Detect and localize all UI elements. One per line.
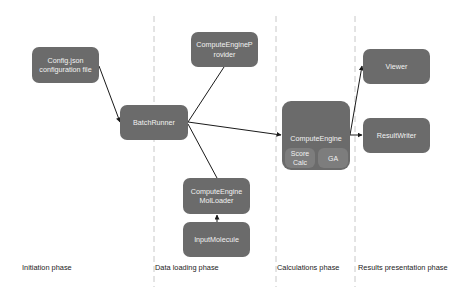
node-result-writer-label: ResultWriter — [377, 131, 416, 141]
edge-computeengine-to-viewer — [350, 66, 362, 135]
phase-label-initiation: Initiation phase — [22, 263, 72, 272]
node-provider-line2: rovider — [196, 50, 252, 60]
node-config-line1: Config.json — [39, 56, 91, 66]
edge-batchrunner-to-computeengine — [188, 122, 281, 135]
node-compute-engine-label: ComputeEngine — [282, 134, 350, 144]
node-batch-runner[interactable]: BatchRunner — [120, 105, 188, 140]
subnode-score-calc-line1: Score — [291, 149, 309, 158]
phase-label-data-loading: Data loading phase — [155, 263, 219, 272]
node-mol-loader-line1: ComputeEngine — [191, 187, 243, 197]
phase-label-calculations: Calculations phase — [277, 263, 339, 272]
subnode-ga-label: GA — [328, 154, 338, 163]
phase-label-results-presentation: Results presentation phase — [358, 263, 448, 272]
edge-config-to-batchrunner — [99, 66, 120, 122]
node-batch-runner-label: BatchRunner — [133, 118, 175, 128]
node-mol-loader[interactable]: ComputeEngine MolLoader — [183, 178, 250, 214]
node-result-writer[interactable]: ResultWriter — [363, 118, 430, 153]
node-compute-engine-provider[interactable]: ComputeEngineP rovider — [191, 32, 258, 67]
subnode-score-calc-line2: Calc — [291, 158, 309, 167]
node-mol-loader-line2: MolLoader — [191, 196, 243, 206]
edge-batchrunner-to-provider — [188, 67, 224, 122]
node-config-line2: configuration file — [39, 65, 91, 75]
node-config-json[interactable]: Config.json configuration file — [32, 47, 99, 83]
node-viewer-label: Viewer — [386, 62, 408, 72]
subnode-score-calc[interactable]: Score Calc — [285, 148, 315, 168]
edge-batchrunner-to-molloader — [188, 124, 217, 178]
node-compute-engine[interactable]: ComputeEngine Score Calc GA — [282, 101, 350, 170]
subnode-ga[interactable]: GA — [318, 148, 348, 168]
node-input-molecule[interactable]: InputMolecule — [183, 222, 250, 257]
node-provider-line1: ComputeEngineP — [196, 40, 252, 50]
architecture-diagram: Config.json configuration file BatchRunn… — [0, 0, 473, 287]
node-viewer[interactable]: Viewer — [363, 49, 430, 84]
node-input-molecule-label: InputMolecule — [194, 235, 239, 245]
